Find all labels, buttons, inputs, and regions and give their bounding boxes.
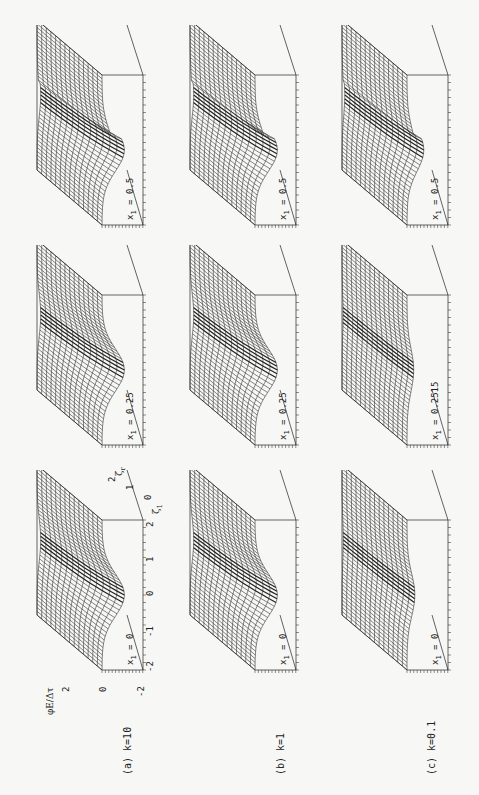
z-tick-neg2: -2	[136, 686, 146, 697]
label-value: = 0.2515	[430, 382, 440, 431]
label-var: x	[278, 660, 288, 665]
label-var: x	[125, 435, 135, 440]
label-subscript: 1	[130, 655, 138, 659]
surface-panel-a-bottom: x1 = 0	[27, 470, 151, 680]
panel-label-x1: x1 = 0.5	[278, 178, 291, 220]
panel-label-x1: x1 = 0.25	[125, 392, 138, 440]
label-value: = 0	[125, 634, 135, 656]
label-subscript: 1	[283, 210, 291, 214]
caption-a: (a) k=10	[122, 727, 133, 775]
label-subscript: 1	[130, 430, 138, 434]
label-var: x	[278, 215, 288, 220]
panel-label-x1: x1 = 0.2515	[430, 382, 443, 440]
panel-label-x1: x1 = 0	[125, 634, 138, 665]
label-value: = 0.5	[278, 178, 288, 211]
z-tick-2: 2	[61, 687, 71, 692]
zeta1-subscript: 1	[156, 504, 164, 508]
zeta1-axis-label: ζ1	[150, 504, 164, 514]
label-var: x	[278, 435, 288, 440]
surface-panel-a-top: x1 = 0.5	[27, 25, 151, 235]
caption-c: (c) k=0.1	[426, 721, 437, 775]
panel-label-x1: x1 = 0	[278, 634, 291, 665]
surface-panel-c-bottom: x1 = 0	[332, 470, 456, 680]
label-value: = 0.25	[125, 392, 135, 430]
label-var: x	[430, 660, 440, 665]
label-var: x	[125, 215, 135, 220]
panel-label-x1: x1 = 0.25	[278, 392, 291, 440]
label-subscript: 1	[435, 430, 443, 434]
label-var: x	[430, 435, 440, 440]
panel-label-x1: x1 = 0.5	[125, 178, 138, 220]
label-value: = 0.25	[278, 392, 288, 430]
surface-panel-b-bottom: x1 = 0	[180, 470, 304, 680]
label-var: x	[125, 660, 135, 665]
label-subscript: 1	[435, 655, 443, 659]
label-subscript: 1	[283, 655, 291, 659]
panel-label-x1: x1 = 0.5	[430, 178, 443, 220]
label-value: = 0.5	[430, 178, 440, 211]
surface-panel-c-middle: x1 = 0.2515	[332, 245, 456, 455]
label-value: = 0	[278, 634, 288, 656]
surface-panel-c-top: x1 = 0.5	[332, 25, 456, 235]
z-axis-label: φE/Δτ	[45, 688, 55, 715]
caption-b: (b) k=1	[275, 733, 286, 775]
z-tick-0: 0	[98, 687, 108, 692]
surface-panel-b-top: x1 = 0.5	[180, 25, 304, 235]
label-subscript: 1	[283, 430, 291, 434]
panel-label-x1: x1 = 0	[430, 634, 443, 665]
surface-panel-b-middle: x1 = 0.25	[180, 245, 304, 455]
label-value: = 0.5	[125, 178, 135, 211]
label-var: x	[430, 215, 440, 220]
label-value: = 0	[430, 634, 440, 656]
label-subscript: 1	[435, 210, 443, 214]
zeta1-symbol: ζ	[150, 509, 161, 514]
surface-panel-a-middle: x1 = 0.25	[27, 245, 151, 455]
label-subscript: 1	[130, 210, 138, 214]
